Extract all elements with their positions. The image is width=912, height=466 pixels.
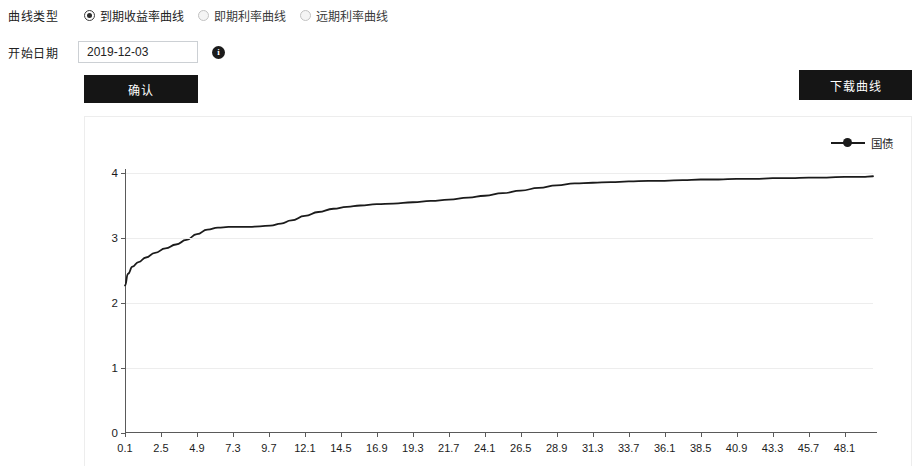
x-axis-tick-label: 16.9 [366, 442, 387, 454]
x-axis-tick-mark [521, 433, 522, 437]
info-icon[interactable]: i [212, 46, 225, 59]
series-line-国债 [125, 176, 873, 285]
radio-label-forward-rate-curve: 远期利率曲线 [316, 7, 388, 24]
x-axis-tick-label: 48.1 [834, 442, 855, 454]
curve-type-label: 曲线类型 [8, 7, 84, 24]
x-axis-tick-label: 38.5 [690, 442, 711, 454]
y-axis-tick-label: 2 [112, 297, 118, 309]
gridline [125, 173, 873, 174]
y-axis-tick-mark [121, 173, 126, 174]
x-axis-tick-label: 26.5 [510, 442, 531, 454]
x-axis-tick-mark [197, 433, 198, 437]
x-axis-tick-mark [449, 433, 450, 437]
x-axis-tick-label: 43.3 [762, 442, 783, 454]
x-axis-tick-label: 33.7 [618, 442, 639, 454]
x-axis-tick-mark [557, 433, 558, 437]
chart-panel: 国债 012340.12.54.97.39.712.114.516.919.32… [84, 116, 912, 466]
curve-type-radio-group: 到期收益率曲线 即期利率曲线 远期利率曲线 [84, 7, 402, 24]
gridline [125, 303, 873, 304]
chart-plot-area: 012340.12.54.97.39.712.114.516.919.321.7… [125, 173, 873, 433]
legend-label-government-bond: 国债 [871, 135, 893, 151]
gridline [125, 368, 873, 369]
x-axis-tick-mark [665, 433, 666, 437]
x-axis-tick-label: 31.3 [582, 442, 603, 454]
x-axis-tick-label: 28.9 [546, 442, 567, 454]
x-axis-tick-mark [233, 433, 234, 437]
x-axis-tick-mark [593, 433, 594, 437]
x-axis-tick-mark [377, 433, 378, 437]
x-axis-tick-label: 9.7 [261, 442, 276, 454]
start-date-label: 开始日期 [8, 44, 78, 61]
confirm-button[interactable]: 确认 [84, 75, 198, 103]
radio-dot-icon [300, 10, 311, 21]
start-date-input[interactable] [78, 41, 198, 63]
x-axis-tick-mark [485, 433, 486, 437]
y-axis-tick-label: 1 [112, 362, 118, 374]
radio-option-spot-rate-curve[interactable]: 即期利率曲线 [198, 7, 286, 24]
start-date-row: 开始日期 i [8, 40, 225, 64]
x-axis-tick-label: 14.5 [330, 442, 351, 454]
x-axis-tick-label: 40.9 [726, 442, 747, 454]
y-axis-tick-mark [121, 238, 126, 239]
x-axis-tick-label: 19.3 [402, 442, 423, 454]
x-axis-tick-mark [629, 433, 630, 437]
x-axis-tick-mark [269, 433, 270, 437]
legend-line-marker-icon [831, 138, 865, 148]
x-axis-tick-mark [845, 433, 846, 437]
x-axis-tick-mark [125, 433, 126, 437]
radio-option-maturity-yield-curve[interactable]: 到期收益率曲线 [84, 7, 184, 24]
y-axis-tick-mark [121, 303, 126, 304]
x-axis-tick-mark [161, 433, 162, 437]
x-axis-tick-label: 21.7 [438, 442, 459, 454]
chart-legend: 国债 [831, 135, 893, 151]
x-axis-tick-mark [305, 433, 306, 437]
x-axis-tick-label: 45.7 [798, 442, 819, 454]
radio-dot-icon [198, 10, 209, 21]
x-axis-tick-mark [413, 433, 414, 437]
x-axis-tick-label: 0.1 [117, 442, 132, 454]
x-axis-tick-mark [701, 433, 702, 437]
y-axis-tick-mark [121, 368, 126, 369]
x-axis-tick-label: 2.5 [153, 442, 168, 454]
x-axis-tick-label: 7.3 [225, 442, 240, 454]
x-axis-tick-mark [809, 433, 810, 437]
radio-option-forward-rate-curve[interactable]: 远期利率曲线 [300, 7, 388, 24]
gridline [125, 238, 873, 239]
radio-label-spot-rate-curve: 即期利率曲线 [214, 7, 286, 24]
curve-type-row: 曲线类型 到期收益率曲线 即期利率曲线 远期利率曲线 [8, 6, 402, 24]
x-axis-tick-label: 4.9 [189, 442, 204, 454]
x-axis-tick-label: 24.1 [474, 442, 495, 454]
x-axis-tick-mark [737, 433, 738, 437]
y-axis-tick-label: 4 [112, 167, 118, 179]
download-curve-button[interactable]: 下载曲线 [799, 70, 912, 100]
radio-dot-icon [84, 10, 95, 21]
x-axis-tick-label: 12.1 [294, 442, 315, 454]
x-axis-tick-label: 36.1 [654, 442, 675, 454]
y-axis-tick-label: 3 [112, 232, 118, 244]
radio-label-maturity-yield-curve: 到期收益率曲线 [100, 7, 184, 24]
x-axis-tick-mark [773, 433, 774, 437]
x-axis-tick-mark [341, 433, 342, 437]
y-axis-tick-label: 0 [112, 427, 118, 439]
